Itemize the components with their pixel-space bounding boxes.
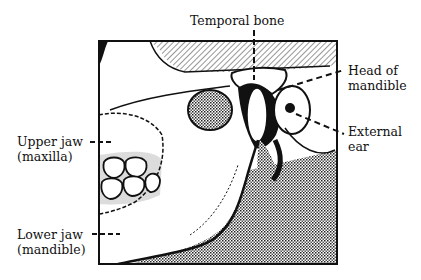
label-head-of-mandible-line1: Head of xyxy=(348,63,398,78)
leader-head-of-mandible xyxy=(278,70,344,90)
label-upper-jaw-line2: (maxilla) xyxy=(17,149,73,164)
label-external-ear-line1: External xyxy=(348,124,402,139)
label-lower-jaw-line2: (mandible) xyxy=(17,242,86,257)
label-head-of-mandible-line2: mandible xyxy=(348,78,407,93)
illustration-content xyxy=(99,41,337,264)
mandible-head xyxy=(247,88,267,142)
label-lower-jaw-line1: Lower jaw xyxy=(17,227,83,242)
label-temporal-bone: Temporal bone xyxy=(190,13,285,28)
label-upper-jaw-line1: Upper jaw xyxy=(17,134,83,149)
label-external-ear-line2: ear xyxy=(348,139,369,154)
